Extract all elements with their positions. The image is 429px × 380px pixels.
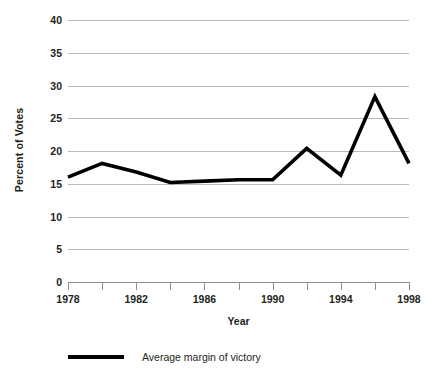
y-axis-tick-label: 25 <box>32 113 62 124</box>
y-axis-title-text: Percent of Votes <box>13 108 25 192</box>
x-axis-tick <box>102 282 103 290</box>
x-axis-tick <box>204 282 205 290</box>
x-axis-tick-label: 1990 <box>261 294 284 305</box>
y-axis-tick-labels: 0510152025303540 <box>28 20 62 282</box>
series-line-average-margin-of-victory <box>68 97 409 183</box>
y-axis-tick-label: 30 <box>32 80 62 91</box>
x-axis-tick <box>68 282 69 290</box>
x-axis-tick-label: 1986 <box>193 294 216 305</box>
y-axis-tick-label: 15 <box>32 179 62 190</box>
x-axis-tick-label: 1982 <box>125 294 148 305</box>
y-axis-tick-label: 40 <box>32 15 62 26</box>
y-axis-tick-label: 35 <box>32 48 62 59</box>
x-axis-tick <box>375 282 376 290</box>
legend-label: Average margin of victory <box>142 351 261 363</box>
y-axis-tick-label: 20 <box>32 146 62 157</box>
y-axis-tick-label: 5 <box>32 244 62 255</box>
x-axis-tick <box>170 282 171 290</box>
x-axis-tick <box>341 282 342 290</box>
x-axis-tick <box>136 282 137 290</box>
x-axis-tick-label: 1978 <box>56 294 79 305</box>
x-axis-title: Year <box>68 315 409 327</box>
line-chart-figure: Percent of Votes 0510152025303540 197819… <box>0 0 429 380</box>
x-axis-tick-labels: 197819821986199019941998 <box>68 294 409 310</box>
x-axis-tick-label: 1998 <box>397 294 420 305</box>
chart-legend: Average margin of victory <box>68 347 409 367</box>
x-axis-tick <box>273 282 274 290</box>
x-axis-tick-label: 1994 <box>329 294 352 305</box>
x-axis-tick <box>239 282 240 290</box>
x-axis-tick <box>409 282 410 290</box>
y-axis-tick-label: 0 <box>32 277 62 288</box>
x-axis-tick <box>307 282 308 290</box>
y-axis-tick-label: 10 <box>32 211 62 222</box>
data-series-layer <box>68 20 409 282</box>
plot-area <box>68 20 409 282</box>
x-axis-ticks <box>68 282 409 291</box>
legend-line-swatch <box>68 355 124 359</box>
